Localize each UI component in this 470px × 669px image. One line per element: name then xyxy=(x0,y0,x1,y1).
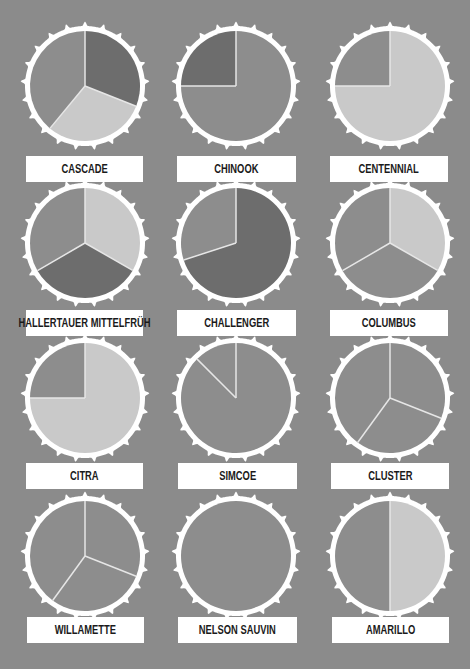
label-cluster: CLUSTER xyxy=(331,463,449,489)
label-simcoe: SIMCOE xyxy=(178,463,297,489)
bottle-cap-pie xyxy=(8,491,162,621)
label-text: CHALLENGER xyxy=(204,316,269,330)
pie-slice-medium xyxy=(181,501,291,611)
bottle-cap-pie xyxy=(313,21,467,151)
bottle-cap-pie xyxy=(159,178,313,308)
label-text: CENTENNIAL xyxy=(359,162,419,176)
bottle-cap-pie xyxy=(313,178,467,308)
bottle-cap-pie xyxy=(8,21,162,151)
label-text: CLUSTER xyxy=(368,469,412,483)
label-text: WILLAMETTE xyxy=(55,623,116,637)
bottle-cap-pie xyxy=(159,491,313,621)
label-text: HALLERTAUER MITTELFRÜH xyxy=(19,316,151,330)
pie-slice-medium xyxy=(30,343,85,398)
bottle-cap-pie xyxy=(313,333,467,463)
pie-slice-dark xyxy=(181,31,236,86)
label-citra: CITRA xyxy=(26,463,143,489)
label-text: COLUMBUS xyxy=(362,316,416,330)
label-text: SIMCOE xyxy=(219,469,256,483)
bottle-cap-pie xyxy=(8,178,162,308)
bottle-cap-pie xyxy=(159,333,313,463)
label-text: NELSON SAUVIN xyxy=(199,623,276,637)
label-amarillo: AMARILLO xyxy=(332,617,449,643)
bottle-cap-pie xyxy=(313,491,467,621)
bottle-cap-pie xyxy=(8,333,162,463)
label-text: CITRA xyxy=(70,469,99,483)
bottle-cap-pie xyxy=(159,21,313,151)
label-nelson-sauvin: NELSON SAUVIN xyxy=(178,617,297,643)
label-willamette: WILLAMETTE xyxy=(27,617,144,643)
label-text: AMARILLO xyxy=(366,623,415,637)
pie-slice-medium xyxy=(335,31,390,86)
label-text: CHINOOK xyxy=(214,162,258,176)
label-text: CASCADE xyxy=(61,162,107,176)
